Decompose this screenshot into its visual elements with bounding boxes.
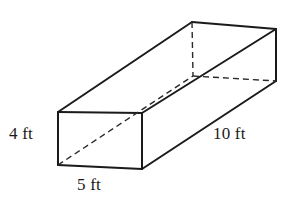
edge-front-top: [58, 112, 142, 113]
height-dimension-label: 4 ft: [9, 125, 33, 142]
hidden-edges-group: [58, 22, 276, 165]
edge-front-bottom: [58, 165, 142, 169]
prism-drawing: [0, 0, 291, 199]
width-dimension-label: 5 ft: [77, 176, 101, 193]
hidden-edge-back-bottom: [193, 76, 276, 81]
hidden-edge-bottom-left-depth: [58, 76, 193, 165]
visible-edges-group: [58, 22, 276, 169]
length-dimension-label: 10 ft: [213, 125, 246, 142]
rectangular-prism-figure: 4 ft 5 ft 10 ft: [0, 0, 291, 199]
edge-back-top: [192, 22, 276, 29]
edge-bottom-right-depth: [142, 81, 276, 169]
edge-top-left-depth: [58, 22, 192, 112]
hidden-edge-back-left-vertical: [192, 22, 193, 76]
